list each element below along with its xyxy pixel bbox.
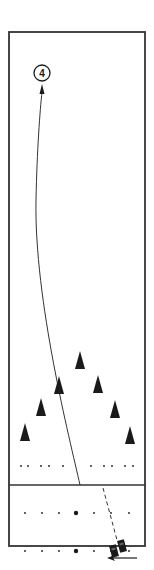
marker-dot: [128, 550, 130, 552]
marker-dot: [90, 465, 92, 467]
marker-dots: [20, 465, 134, 553]
center-marker-dot: [74, 511, 78, 515]
marker-dot: [110, 512, 112, 514]
cone-icon: [93, 375, 103, 393]
center-marker-dot: [74, 549, 78, 553]
approach-path: [103, 488, 117, 540]
cone-icon: [54, 376, 64, 394]
direction-arrow: [107, 555, 137, 561]
marker-dot: [111, 465, 113, 467]
field-frame: [9, 32, 145, 546]
marker-dot: [132, 465, 134, 467]
marker-dot: [58, 512, 60, 514]
arrowhead-icon: [40, 84, 45, 94]
marker-dot: [20, 465, 22, 467]
car-icon: [117, 539, 127, 552]
marker-dot: [41, 512, 43, 514]
cones-group: [20, 351, 135, 444]
marker-dot: [93, 512, 95, 514]
drill-diagram: 4: [0, 0, 154, 570]
marker-dot: [93, 550, 95, 552]
marker-dot: [48, 465, 50, 467]
marker-dot: [24, 512, 26, 514]
marker-dot: [124, 465, 126, 467]
cone-icon: [125, 426, 135, 444]
marker-dot: [41, 550, 43, 552]
marker-dot: [128, 512, 130, 514]
player-number: 4: [39, 68, 45, 79]
cone-icon: [36, 398, 46, 416]
marker-dot: [27, 465, 29, 467]
marker-dot: [62, 465, 64, 467]
marker-dot: [58, 550, 60, 552]
marker-dot: [24, 550, 26, 552]
vehicle-2: [117, 539, 127, 552]
cone-icon: [20, 423, 30, 441]
marker-dot: [40, 465, 42, 467]
marker-dot: [103, 465, 105, 467]
cone-icon: [75, 351, 85, 369]
cone-icon: [110, 400, 120, 418]
run-path: [36, 92, 80, 485]
player-marker: 4: [34, 65, 50, 81]
